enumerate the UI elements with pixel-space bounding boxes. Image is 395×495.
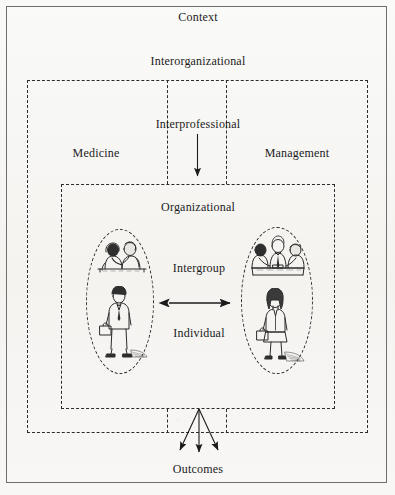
interprofessional-left-divider: [167, 80, 168, 184]
label-medicine: Medicine: [73, 146, 120, 161]
label-context: Context: [178, 10, 217, 25]
label-organizational: Organizational: [161, 200, 235, 215]
illustration-three-people-meeting: [246, 234, 310, 284]
illustration-woman-with-briefcase: [254, 288, 310, 368]
illustration-man-with-briefcase: [95, 286, 149, 366]
interprofessional-right-divider: [226, 80, 227, 184]
interprofessional-left-divider-lower: [167, 409, 168, 433]
label-management: Management: [265, 146, 330, 161]
label-interprofessional: Interprofessional: [156, 117, 241, 132]
illustration-two-people-talking: [93, 236, 151, 282]
label-individual: Individual: [173, 326, 224, 341]
label-interorganizational: Interorganizational: [151, 54, 246, 69]
label-outcomes: Outcomes: [173, 462, 223, 477]
label-intergroup: Intergroup: [173, 261, 225, 276]
interprofessional-right-divider-lower: [226, 409, 227, 433]
figure-canvas: Context Interorganizational Interprofess…: [0, 0, 395, 495]
